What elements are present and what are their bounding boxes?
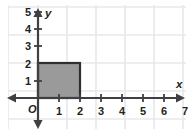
coordinate-plane-svg: 1 2 3 4 5 6 7 1 2 3 4 5 O x y [0, 0, 194, 134]
shaded-square [38, 63, 80, 98]
y-tick-label-5: 5 [25, 6, 31, 18]
origin-label: O [28, 103, 37, 115]
y-tick-label-2: 2 [25, 58, 31, 70]
y-axis-label: y [44, 7, 52, 19]
x-tick-label-3: 3 [98, 105, 104, 117]
coordinate-plane-figure: 1 2 3 4 5 6 7 1 2 3 4 5 O x y [0, 0, 194, 134]
x-axis-label: x [175, 78, 183, 90]
x-tick-label-4: 4 [119, 105, 126, 117]
y-tick-label-4: 4 [25, 23, 32, 35]
y-tick-label-1: 1 [25, 75, 31, 87]
x-tick-label-7: 7 [182, 105, 188, 117]
y-axis-down-arrow-icon [33, 120, 42, 129]
x-tick-label-5: 5 [140, 105, 146, 117]
x-tick-label-1: 1 [56, 105, 62, 117]
y-tick-label-3: 3 [25, 40, 31, 52]
x-tick-label-6: 6 [161, 105, 167, 117]
x-tick-label-2: 2 [77, 105, 83, 117]
